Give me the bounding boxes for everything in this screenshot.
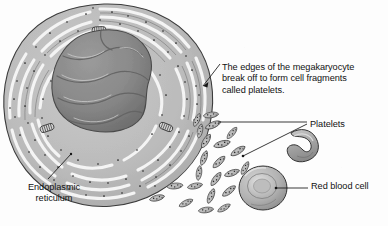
- platelet: [198, 206, 214, 214]
- endoplasmic-reticulum-leader-dot: [70, 153, 72, 155]
- platelet: [187, 182, 203, 191]
- platelet: [225, 126, 239, 141]
- red-blood-cell-label: Red blood cell: [311, 181, 369, 192]
- megakaryocyte-cell: [4, 4, 213, 207]
- endoplasmic-reticulum-label: Endoplasmic reticulum: [12, 182, 96, 205]
- platelet: [224, 168, 241, 179]
- platelet: [213, 139, 231, 150]
- platelet: [205, 188, 216, 205]
- platelet: [199, 150, 210, 166]
- platelet: [221, 184, 237, 199]
- megakaryocyte-platelet-figure: The edges of the megakaryocyte break off…: [0, 0, 388, 226]
- platelets-leader-lower-dot: [242, 155, 245, 158]
- platelets-label: Platelets: [310, 119, 345, 130]
- platelet: [211, 154, 227, 169]
- red-blood-cell-side-view: [287, 130, 318, 162]
- megakaryocyte-callout-label: The edges of the megakaryocyte break off…: [222, 62, 354, 96]
- red-blood-cell-leader-dot: [275, 187, 278, 190]
- platelet: [178, 197, 194, 208]
- platelet: [216, 202, 231, 214]
- platelet: [195, 165, 202, 181]
- platelet: [209, 171, 223, 188]
